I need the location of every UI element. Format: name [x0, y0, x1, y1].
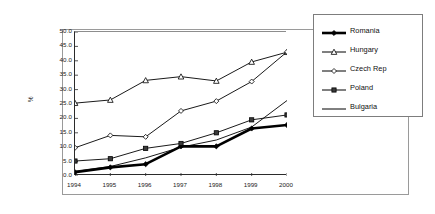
data-point-marker	[108, 133, 113, 138]
legend-item-poland[interactable]: Poland	[314, 78, 422, 97]
legend-item-romania[interactable]: Romania	[314, 21, 422, 40]
y-axis-title: %	[28, 96, 35, 102]
series-poland	[75, 113, 287, 163]
series-canvas	[75, 32, 287, 176]
x-axis-tick-label: 1995	[102, 182, 116, 188]
y-axis-tick-label: 0.0	[42, 172, 72, 178]
series-czech-rep	[75, 49, 287, 150]
data-point-marker	[108, 157, 112, 161]
data-point-marker	[250, 118, 254, 122]
y-axis-tick-label: 50.0	[42, 28, 72, 34]
legend-item-label: Poland	[350, 84, 373, 91]
data-point-marker	[284, 122, 287, 127]
x-axis-tick-label: 1996	[138, 182, 152, 188]
legend-swatch	[321, 63, 347, 75]
data-point-marker	[332, 68, 337, 73]
legend-swatch	[321, 101, 347, 113]
y-axis-tick-labels: 50.045.040.035.030.025.020.015.010.05.00…	[40, 31, 72, 175]
legend-swatch	[321, 25, 347, 37]
y-axis-tick-label: 15.0	[42, 129, 72, 135]
data-point-marker	[75, 145, 78, 150]
y-axis-tick-label: 30.0	[42, 86, 72, 92]
legend-swatch	[321, 82, 347, 94]
legend-item-bulgaria[interactable]: Bulgaria	[314, 97, 422, 116]
series-line	[75, 115, 287, 161]
legend-item-label: Czech Rep	[350, 65, 387, 72]
y-axis-tick-label: 5.0	[42, 158, 72, 164]
series-line	[75, 52, 287, 148]
x-axis-tick-labels: 1994199519961997199819992000	[74, 180, 286, 192]
data-point-marker	[214, 99, 219, 104]
legend-item-label: Bulgaria	[350, 103, 377, 110]
y-axis-tick-label: 35.0	[42, 71, 72, 77]
legend-item-hungary[interactable]: Hungary	[314, 40, 422, 59]
data-point-marker	[332, 87, 336, 91]
x-axis-tick-label: 1998	[208, 182, 222, 188]
y-axis-tick-label: 45.0	[42, 42, 72, 48]
data-point-marker	[144, 146, 148, 150]
series-hungary	[75, 49, 287, 105]
data-point-marker	[108, 165, 113, 170]
data-point-marker	[179, 141, 183, 145]
x-axis-tick-label: 1997	[173, 182, 187, 188]
y-axis-tick-label: 20.0	[42, 114, 72, 120]
data-point-marker	[75, 159, 77, 163]
legend-swatch	[321, 44, 347, 56]
data-point-marker	[285, 113, 287, 117]
x-axis-tick-label: 2000	[279, 182, 293, 188]
x-axis-tick-label: 1999	[244, 182, 258, 188]
data-point-marker	[214, 131, 218, 135]
legend-item-label: Hungary	[350, 46, 378, 53]
chart-figure: 50.045.040.035.030.025.020.015.010.05.00…	[0, 0, 435, 214]
y-axis-tick-label: 40.0	[42, 57, 72, 63]
legend-item-czech-rep[interactable]: Czech Rep	[314, 59, 422, 78]
y-axis-tick-label: 10.0	[42, 143, 72, 149]
x-axis-tick-label: 1994	[67, 182, 81, 188]
data-point-marker	[331, 30, 336, 35]
y-axis-tick-label: 25.0	[42, 100, 72, 106]
legend-item-label: Romania	[350, 27, 380, 34]
plot-area	[74, 31, 286, 175]
legend: RomaniaHungaryCzech RepPolandBulgaria	[313, 14, 423, 117]
